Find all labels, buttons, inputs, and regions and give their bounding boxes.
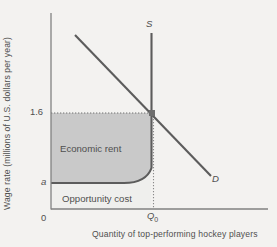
y-axis-title: Wage rate (millions of U.S. dollars per … (3, 0, 23, 210)
economic-rent-figure: Wage rate (millions of U.S. dollars per … (0, 0, 277, 247)
equilibrium-marker (149, 110, 155, 116)
x-tick-q-subscript: 0 (154, 216, 158, 223)
x-tick-label-q0: Q0 (147, 211, 158, 223)
y-tick-label-wage: 1.6 (30, 107, 43, 116)
chart-canvas (0, 0, 277, 247)
economic-rent-label: Economic rent (60, 144, 121, 154)
opportunity-cost-label: Opportunity cost (62, 194, 132, 204)
origin-label: 0 (41, 213, 46, 222)
demand-curve-label: D (212, 174, 219, 184)
x-axis-title: Quantity of top-performing hockey player… (92, 230, 258, 239)
y-tick-label-a: a (41, 177, 46, 187)
supply-curve-label: S (146, 19, 152, 29)
